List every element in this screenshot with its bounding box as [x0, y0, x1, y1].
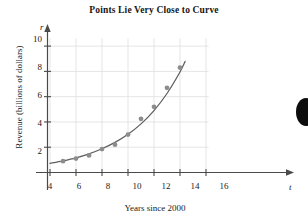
- fit-curve: [50, 61, 185, 163]
- data-point: [113, 142, 118, 147]
- data-point: [139, 116, 144, 121]
- tick-marks: [44, 46, 206, 176]
- data-point: [126, 132, 131, 137]
- chart-figure: Points Lie Very Close to Curve Revenue (…: [0, 0, 308, 222]
- data-point: [100, 147, 105, 152]
- gridlines: [48, 39, 209, 172]
- data-point: [74, 156, 79, 161]
- axis-lines: [36, 24, 294, 190]
- plot-area: [0, 0, 308, 222]
- data-point: [87, 153, 92, 158]
- data-points: [61, 65, 183, 163]
- data-point: [178, 65, 183, 70]
- data-point: [152, 104, 157, 109]
- data-point: [165, 85, 170, 90]
- data-point: [61, 159, 66, 164]
